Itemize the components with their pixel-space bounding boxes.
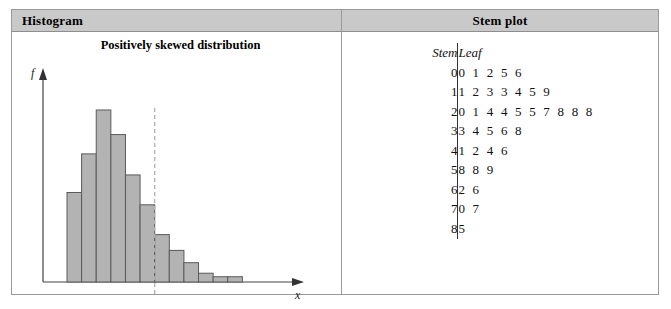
stem-column-header: Stem [405,43,458,63]
histogram-panel: Histogram Positively skewed distribution… [12,10,341,294]
stem-value: 8 [405,219,458,239]
stemplot-row: 11 2 3 3 4 5 9 [405,83,594,103]
leaf-values: 1 2 4 6 [458,141,595,161]
stemplot-row: 00 1 2 5 6 [405,63,594,83]
histogram-bar [155,235,170,282]
stemplot-header-row: Stem Leaf [405,43,594,63]
histogram-bar [111,135,126,282]
stemplot-body: Stem Leaf 00 1 2 5 611 2 3 3 4 5 920 1 4… [342,32,658,239]
stemplot-panel: Stem plot Stem Leaf 00 1 2 5 611 2 3 3 4… [341,10,658,294]
stem-value: 4 [405,141,458,161]
histogram-bar [82,154,97,282]
leaf-values: 8 8 9 [458,161,595,181]
leaf-values: 5 [458,219,595,239]
stem-value: 5 [405,161,458,181]
leaf-column-header: Leaf [458,43,595,63]
stemplot-row: 33 4 5 6 8 [405,122,594,142]
stemplot-row: 70 7 [405,200,594,220]
histogram-plot [12,10,341,295]
stem-value: 6 [405,180,458,200]
stemplot-row: 62 6 [405,180,594,200]
leaf-values: 0 7 [458,200,595,220]
histogram-bar [199,273,214,282]
leaf-values: 0 1 4 4 5 5 7 8 8 8 [458,102,595,122]
histogram-bar [140,205,155,282]
leaf-values: 2 6 [458,180,595,200]
stem-value: 0 [405,63,458,83]
histogram-bar [96,110,111,282]
stem-value: 7 [405,200,458,220]
stemplot-row: 41 2 4 6 [405,141,594,161]
stem-value: 3 [405,122,458,142]
stem-value: 1 [405,83,458,103]
histogram-bar [213,277,228,282]
histogram-bar [169,250,184,282]
stemplot-panel-header: Stem plot [342,10,658,32]
histogram-bar [228,277,243,282]
histogram-bar [184,263,199,282]
histogram-bar [125,175,140,282]
histogram-bar [67,192,82,282]
stemplot-table: Stem Leaf 00 1 2 5 611 2 3 3 4 5 920 1 4… [405,43,594,239]
y-axis [39,68,47,282]
stem-value: 2 [405,102,458,122]
leaf-values: 1 2 3 3 4 5 9 [458,83,595,103]
stemplot-row: 20 1 4 4 5 5 7 8 8 8 [405,102,594,122]
leaf-values: 0 1 2 5 6 [458,63,595,83]
figure-container: Histogram Positively skewed distribution… [11,9,659,295]
leaf-values: 3 4 5 6 8 [458,122,595,142]
stemplot-row: 58 8 9 [405,161,594,181]
stemplot-row: 85 [405,219,594,239]
